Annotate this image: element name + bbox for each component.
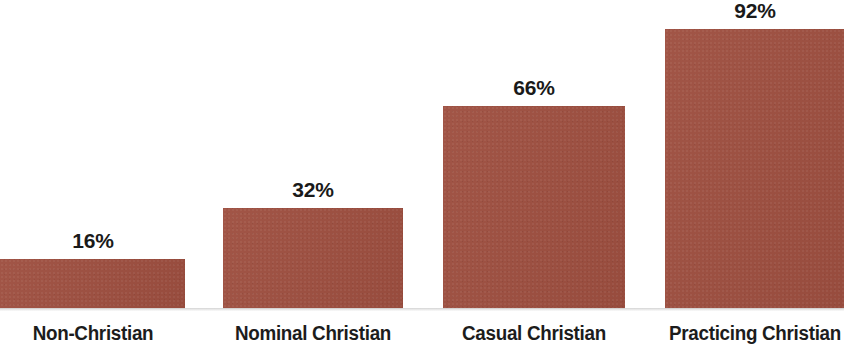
axis-baseline <box>0 308 844 311</box>
bar-casual-christian <box>443 106 625 309</box>
category-label-casual-christian: Casual Christian <box>462 322 606 345</box>
category-label-non-christian: Non-Christian <box>33 322 154 345</box>
plot-area: 16% 32% 66% 92% <box>0 0 844 309</box>
category-axis: Non-Christian Nominal Christian Casual C… <box>0 312 844 349</box>
category-label-practicing-christian: Practicing Christian <box>669 322 841 345</box>
bar-practicing-christian <box>665 29 844 309</box>
bar-value-label-practicing-christian: 92% <box>734 0 775 23</box>
bar-value-label-casual-christian: 66% <box>513 76 554 100</box>
bar-chart: 16% 32% 66% 92% Non-Christian Nominal Ch… <box>0 0 844 349</box>
bar-nominal-christian <box>223 208 403 309</box>
bar-value-label-non-christian: 16% <box>72 229 113 253</box>
bar-value-label-nominal-christian: 32% <box>292 178 333 202</box>
bar-non-christian <box>0 259 185 309</box>
category-label-nominal-christian: Nominal Christian <box>235 322 391 345</box>
